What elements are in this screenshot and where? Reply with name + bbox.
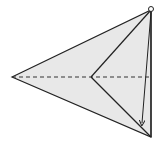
fold-diagram [0, 0, 166, 152]
outer-kite [12, 10, 151, 137]
pivot-circle-icon [149, 7, 154, 12]
